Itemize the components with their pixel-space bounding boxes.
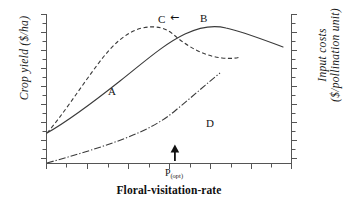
y-axis-right-title: Input costs ($/pollination unit) bbox=[316, 0, 342, 145]
y-axis-left-title: Crop yield ($/ha) bbox=[18, 0, 30, 148]
p-opt-subscript: (opt) bbox=[170, 172, 183, 179]
p-opt-up-arrow-icon bbox=[171, 145, 180, 162]
left-arrow-icon: ← bbox=[170, 12, 179, 24]
right-axis-ticks bbox=[292, 15, 297, 159]
curve-label-a: A bbox=[108, 85, 116, 97]
y-axis-right-title-line1: Input costs bbox=[316, 0, 329, 145]
x-axis-title: Floral-visitation-rate bbox=[46, 184, 292, 196]
curve-label-c: C bbox=[158, 13, 165, 25]
curve-d-dashdot bbox=[47, 73, 220, 163]
y-axis-right-title-line2: ($/pollination unit) bbox=[329, 0, 342, 145]
left-axis-ticks bbox=[41, 15, 46, 159]
curve-label-b: B bbox=[200, 12, 207, 24]
curve-a-b-solid bbox=[47, 27, 283, 133]
chart-figure: Crop yield ($/ha) Input costs ($/pollina… bbox=[0, 0, 346, 204]
curve-label-d: D bbox=[206, 117, 214, 129]
p-opt-label: P(opt) bbox=[148, 167, 200, 179]
